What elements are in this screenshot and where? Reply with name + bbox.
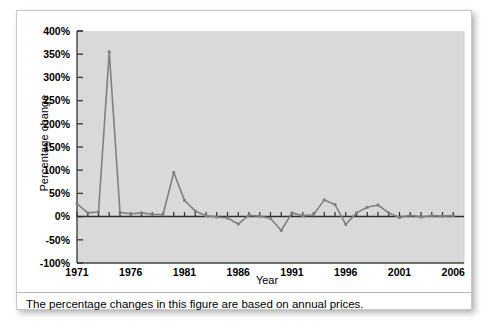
data-point-marker xyxy=(355,211,358,214)
data-point-marker xyxy=(76,202,79,205)
figure-caption: The percentage changes in this figure ar… xyxy=(26,297,466,311)
data-point-marker xyxy=(301,214,304,217)
y-tick-label: 0% xyxy=(55,210,71,222)
y-tick-label: -50% xyxy=(45,234,70,246)
x-axis-title: Year xyxy=(77,274,457,286)
data-point-marker xyxy=(344,223,347,226)
y-tick-label: 50% xyxy=(49,187,71,199)
data-point-marker xyxy=(420,216,423,219)
data-point-marker xyxy=(269,217,272,220)
data-point-marker xyxy=(151,213,154,216)
data-point-marker xyxy=(280,229,283,232)
data-point-marker xyxy=(452,214,455,217)
data-point-marker xyxy=(205,214,208,217)
y-tick-label: 150% xyxy=(43,141,71,153)
caption-divider xyxy=(17,292,471,293)
data-point-marker xyxy=(183,199,186,202)
y-tick-label: 100% xyxy=(43,164,71,176)
figure-root: Percentage change -100%-50%0%50%100%150%… xyxy=(0,0,492,336)
data-point-marker xyxy=(323,199,326,202)
data-point-marker xyxy=(441,215,444,218)
data-point-marker xyxy=(129,212,132,215)
chart-region: Percentage change -100%-50%0%50%100%150%… xyxy=(17,11,471,293)
data-point-marker xyxy=(258,215,261,218)
data-point-marker xyxy=(140,211,143,214)
data-point-marker xyxy=(312,213,315,216)
y-tick-label: 200% xyxy=(43,118,71,130)
y-tick-label: 250% xyxy=(43,94,71,106)
data-point-marker xyxy=(248,214,251,217)
data-point-marker xyxy=(409,214,412,217)
data-point-marker xyxy=(398,216,401,219)
data-point-marker xyxy=(86,211,89,214)
data-point-marker xyxy=(226,217,229,220)
y-tick-label: 350% xyxy=(43,48,71,60)
y-tick-label: 400% xyxy=(43,25,71,37)
data-point-marker xyxy=(237,223,240,226)
data-point-marker xyxy=(366,206,369,209)
data-point-marker xyxy=(387,211,390,214)
data-point-marker xyxy=(334,203,337,206)
line-chart-plot: -100%-50%0%50%100%150%200%250%300%350%40… xyxy=(17,11,471,293)
data-point-marker xyxy=(119,211,122,214)
data-point-marker xyxy=(194,210,197,213)
figure-card: Percentage change -100%-50%0%50%100%150%… xyxy=(16,10,472,310)
data-point-marker xyxy=(291,211,294,214)
data-point-marker xyxy=(430,214,433,217)
data-point-marker xyxy=(97,211,100,214)
data-point-marker xyxy=(108,50,111,53)
y-tick-label: 300% xyxy=(43,71,71,83)
data-point-marker xyxy=(162,213,165,216)
data-point-marker xyxy=(377,204,380,207)
data-point-marker xyxy=(215,216,218,219)
data-point-marker xyxy=(172,171,175,174)
